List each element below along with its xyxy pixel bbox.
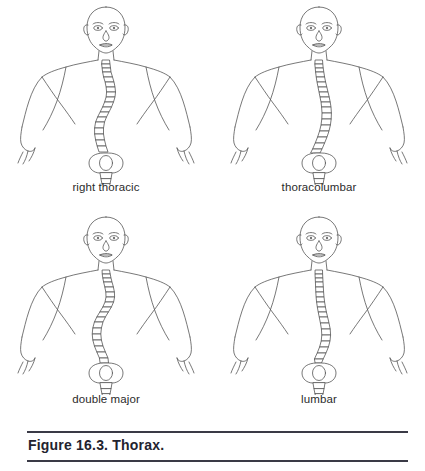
figure-caption-block: Figure 16.3. Thorax. [0, 425, 425, 471]
figure-panel-thoracolumbar: thoracolumbar [213, 0, 425, 210]
anatomy-illustration-right-thoracic [0, 0, 212, 185]
head-icon [297, 7, 342, 53]
caption-rule-bottom [27, 460, 408, 462]
face-features-icon [93, 233, 119, 257]
pelvis-sacrum [89, 363, 123, 395]
head-icon [84, 217, 129, 263]
pelvis-sacrum [302, 363, 336, 395]
face-features-icon [306, 233, 332, 257]
head-icon [297, 217, 342, 263]
figure-label-double-major: double major [0, 393, 212, 405]
figure-panel-right-thoracic: right thoracic [0, 0, 212, 210]
figure-panel-grid: right thoracic [0, 0, 425, 420]
face-features-icon [93, 23, 119, 47]
spine-column [302, 270, 336, 395]
anatomy-illustration-lumbar [213, 210, 425, 395]
head-icon [84, 7, 129, 53]
figure-label-right-thoracic: right thoracic [0, 181, 212, 193]
figure-label-thoracolumbar: thoracolumbar [213, 181, 425, 193]
anatomy-illustration-double-major [0, 210, 212, 395]
anatomy-illustration-thoracolumbar [213, 0, 425, 185]
caption-rule-top [27, 431, 408, 433]
figure-caption-text: Figure 16.3. Thorax. [28, 437, 164, 453]
spine-column [89, 60, 123, 185]
figure-panel-double-major: double major [0, 210, 212, 420]
spine-column [89, 270, 123, 395]
spine-column [302, 60, 336, 185]
figure-label-lumbar: lumbar [213, 393, 425, 405]
figure-panel-lumbar: lumbar [213, 210, 425, 420]
face-features-icon [306, 23, 332, 47]
